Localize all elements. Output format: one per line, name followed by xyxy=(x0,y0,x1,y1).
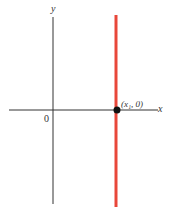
point-label: (x₁, 0) xyxy=(121,99,143,109)
coordinate-diagram xyxy=(0,0,175,218)
point-x1-0 xyxy=(114,107,121,114)
x-axis-label: x xyxy=(158,103,162,114)
y-axis-label: y xyxy=(51,3,55,14)
origin-label: 0 xyxy=(44,113,49,124)
